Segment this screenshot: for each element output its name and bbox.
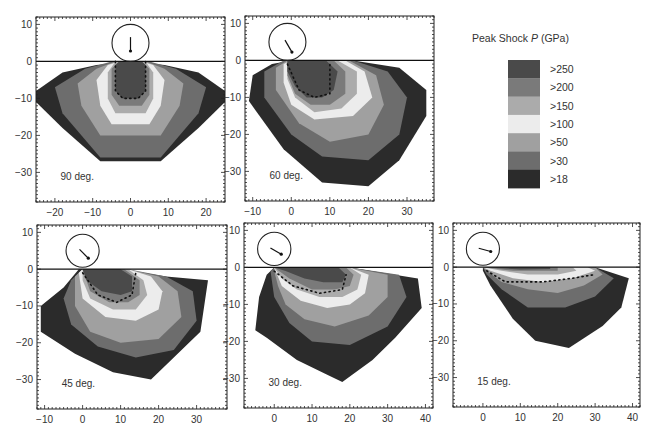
x-tick-label: 40: [420, 413, 432, 424]
x-tick-label: 10: [163, 207, 175, 218]
y-tick-label: −10: [432, 298, 449, 309]
y-tick-label: 10: [21, 19, 33, 30]
x-tick-label: 0: [289, 206, 295, 217]
x-tick-label: 30: [590, 412, 602, 423]
y-tick-label: −10: [15, 93, 32, 104]
legend-label: >250: [550, 63, 574, 75]
x-tick-label: 10: [515, 412, 527, 423]
y-tick-label: 10: [22, 227, 34, 238]
x-tick-label: 20: [201, 207, 213, 218]
impact-direction-arrow: [270, 248, 281, 254]
panel-angle-label: 30 deg.: [269, 377, 302, 388]
y-tick-label: −30: [224, 166, 241, 177]
contour-region-gt250: [115, 61, 145, 98]
legend-label: >200: [550, 81, 574, 93]
x-tick-label: 0: [128, 207, 134, 218]
x-tick-label: 0: [480, 412, 486, 423]
legend-label: >18: [550, 173, 568, 185]
legend-swatch: [508, 170, 540, 189]
y-tick-label: 10: [229, 225, 241, 236]
y-tick-label: −20: [16, 337, 33, 348]
x-tick-label: −10: [84, 207, 101, 218]
y-tick-label: −20: [224, 129, 241, 140]
x-tick-label: 20: [153, 414, 165, 425]
y-tick-label: 10: [230, 18, 242, 29]
y-tick-label: −30: [15, 167, 32, 178]
panel-angle-label: 60 deg.: [270, 170, 303, 181]
y-tick-label: −20: [432, 335, 449, 346]
arrow-head-icon: [280, 253, 283, 256]
y-tick-label: 0: [26, 56, 32, 67]
x-tick-label: 20: [363, 206, 375, 217]
panel-angle-label: 15 deg.: [477, 376, 510, 387]
x-tick-label: −10: [36, 414, 53, 425]
legend-swatch: [508, 60, 540, 79]
legend-title: Peak Shock P (GPa): [472, 32, 569, 44]
y-tick-label: −20: [15, 130, 32, 141]
y-tick-label: −30: [223, 373, 240, 384]
arrow-head-icon: [87, 257, 90, 260]
panel-angle-label: 45 deg.: [62, 378, 95, 389]
legend-label: >150: [550, 100, 574, 112]
legend-label: >50: [550, 136, 568, 148]
panel-15deg: 010203040100−10−20−3015 deg.: [432, 223, 640, 423]
impact-direction-arrow: [479, 248, 491, 251]
figure: −20−1001020100−10−20−3090 deg.−100102030…: [0, 0, 651, 438]
x-tick-label: 40: [627, 412, 639, 423]
x-tick-label: 30: [401, 206, 413, 217]
y-tick-label: 0: [235, 55, 241, 66]
x-tick-label: −10: [244, 206, 261, 217]
projectile-circle: [66, 234, 99, 267]
y-tick-label: 0: [234, 262, 240, 273]
y-tick-label: −20: [223, 336, 240, 347]
projectile-circle: [269, 23, 306, 60]
arrow-head-icon: [129, 49, 132, 52]
panel-45deg: −100102030100−10−20−3045 deg.: [16, 225, 227, 425]
projectile-circle: [466, 232, 499, 265]
legend-label: >100: [550, 118, 574, 130]
x-tick-label: 0: [80, 414, 86, 425]
panel-30deg: 010203040100−10−20−3030 deg.: [223, 223, 433, 424]
legend-label: >30: [550, 155, 568, 167]
impact-direction-arrow: [285, 40, 292, 52]
legend: Peak Shock P (GPa) >250>200>150>100>50>3…: [472, 32, 574, 188]
panel-angle-label: 90 deg.: [61, 171, 94, 182]
panel-60deg: −100102030100−10−20−3060 deg.: [224, 16, 434, 217]
y-tick-label: −10: [224, 92, 241, 103]
panel-90deg: −20−1001020100−10−20−3090 deg.: [15, 17, 225, 218]
y-tick-label: −30: [16, 374, 33, 385]
x-tick-label: 30: [382, 413, 394, 424]
x-tick-label: 30: [191, 414, 203, 425]
y-tick-label: 10: [438, 225, 450, 236]
x-tick-label: −20: [46, 207, 63, 218]
arrow-head-icon: [489, 250, 492, 253]
y-tick-label: 0: [443, 262, 449, 273]
legend-swatch: [508, 97, 540, 116]
x-tick-label: 0: [271, 413, 277, 424]
legend-swatch: [508, 152, 540, 171]
impact-direction-arrow: [80, 249, 89, 258]
legend-swatch: [508, 133, 540, 152]
y-tick-label: −10: [223, 299, 240, 310]
y-tick-label: 0: [27, 264, 33, 275]
y-tick-label: −30: [432, 372, 449, 383]
y-tick-label: −10: [16, 300, 33, 311]
x-tick-label: 10: [115, 414, 127, 425]
x-tick-label: 20: [552, 412, 564, 423]
x-tick-label: 10: [306, 413, 318, 424]
legend-swatch: [508, 115, 540, 134]
projectile-circle: [258, 232, 291, 265]
arrow-head-icon: [290, 51, 293, 54]
x-tick-label: 20: [344, 413, 356, 424]
x-tick-label: 10: [324, 206, 336, 217]
legend-swatch: [508, 78, 540, 97]
panels: −20−1001020100−10−20−3090 deg.−100102030…: [15, 16, 640, 425]
